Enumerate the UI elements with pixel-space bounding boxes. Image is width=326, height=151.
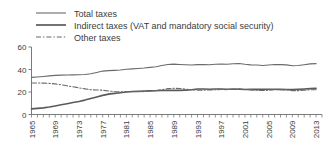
x-axis-tick-label: 2009 xyxy=(288,120,297,138)
x-axis-tick-label-group: 1997 xyxy=(217,120,226,138)
x-axis-tick-labels: 1965196919731977198119851989199319972001… xyxy=(28,120,322,138)
x-axis-tick-label-group: 2005 xyxy=(265,120,274,138)
x-axis-tick-label-group: 1965 xyxy=(28,120,37,138)
y-axis-tick-label: 0 xyxy=(22,111,27,120)
x-axis-tick-label-group: 1969 xyxy=(51,120,60,138)
y-axis-tick-label: 20 xyxy=(18,88,27,97)
x-axis-tick-label-group: 2001 xyxy=(241,120,250,138)
x-axis-tick-label-group: 1985 xyxy=(146,120,155,138)
y-axis-tick-labels: 0204060 xyxy=(18,43,27,120)
y-axis-tick-label: 60 xyxy=(18,43,27,52)
legend-label-other-taxes: Other taxes xyxy=(74,33,121,43)
legend-label-indirect-taxes: Indirect taxes (VAT and mandatory social… xyxy=(74,21,274,31)
x-axis-tick-label: 1965 xyxy=(28,120,37,138)
x-axis-tick-label: 1985 xyxy=(146,120,155,138)
chart-canvas: Total taxes Indirect taxes (VAT and mand… xyxy=(0,0,326,151)
tax-revenue-line-chart: Total taxes Indirect taxes (VAT and mand… xyxy=(0,0,326,151)
x-axis-tick-label: 1969 xyxy=(51,120,60,138)
x-axis-tick-label: 1997 xyxy=(217,120,226,138)
x-axis-tick-label: 1993 xyxy=(194,120,203,138)
x-axis-tick-label: 1977 xyxy=(99,120,108,138)
x-axis-tick-label: 1989 xyxy=(170,120,179,138)
x-axis-tick-label: 2005 xyxy=(265,120,274,138)
x-axis-tick-label-group: 1989 xyxy=(170,120,179,138)
y-axis-tick-label: 40 xyxy=(18,66,27,75)
chart-series-group xyxy=(32,64,317,109)
x-axis-tick-label-group: 1981 xyxy=(122,120,131,138)
legend-item-total-taxes: Total taxes xyxy=(36,9,118,19)
series-line-indirect-taxes-vat-and-mandatory-social-security xyxy=(32,88,317,108)
x-axis-tick-label-group: 1993 xyxy=(194,120,203,138)
legend-item-other-taxes: Other taxes xyxy=(36,33,121,43)
x-axis-tick-label-group: 2013 xyxy=(312,120,321,138)
series-line-total-taxes xyxy=(32,64,317,78)
x-axis-tick-label-group: 1977 xyxy=(99,120,108,138)
legend-item-indirect-taxes: Indirect taxes (VAT and mandatory social… xyxy=(36,21,274,31)
x-axis-tick-label: 2013 xyxy=(312,120,321,138)
chart-legend: Total taxes Indirect taxes (VAT and mand… xyxy=(36,9,274,43)
x-axis-tick-label-group: 2009 xyxy=(288,120,297,138)
x-axis-tick-label: 2001 xyxy=(241,120,250,138)
x-axis-tick-label-group: 1973 xyxy=(75,120,84,138)
legend-label-total-taxes: Total taxes xyxy=(74,9,118,19)
x-axis-tick-label: 1981 xyxy=(122,120,131,138)
x-axis-tick-label: 1973 xyxy=(75,120,84,138)
